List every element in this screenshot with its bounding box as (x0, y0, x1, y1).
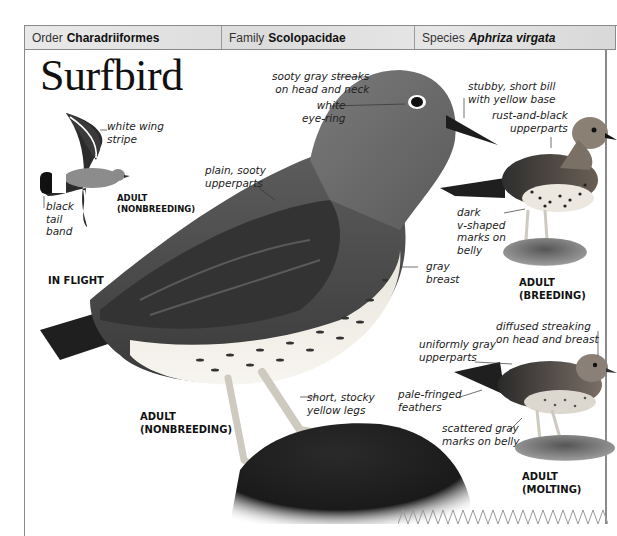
note-line: uniformly gray (419, 338, 496, 351)
note-rust-black-upperparts: rust-and-black upperparts (492, 109, 568, 134)
note-line: pale-fringed (398, 388, 462, 401)
note-line: white (302, 99, 345, 112)
note-line: rust-and-black (492, 109, 568, 122)
note-line: belly (457, 244, 506, 257)
note-line: upperparts (419, 351, 496, 364)
note-line: marks on (457, 231, 506, 244)
note-scattered-gray-marks: scattered gray marks on belly (442, 422, 519, 447)
note-line: on head and neck (272, 83, 369, 96)
zigzag-divider-decoration (398, 508, 608, 524)
caption-line: (NONBREEDING) (117, 204, 195, 215)
note-white-wing-stripe: white wing stripe (107, 120, 164, 145)
note-black-tail-band: black tail band (46, 200, 74, 238)
note-plain-sooty-upperparts: plain, sooty upperparts (205, 164, 266, 189)
note-short-stocky-legs: short, stocky yellow legs (307, 391, 375, 416)
caption-molting: ADULT (MOLTING) (522, 470, 581, 496)
note-line: gray (426, 260, 459, 273)
note-line: short, stocky (307, 391, 375, 404)
note-line: plain, sooty (205, 164, 266, 177)
caption-in-flight: IN FLIGHT (48, 274, 104, 287)
caption-main-nonbreeding: ADULT (NONBREEDING) (140, 410, 232, 436)
note-line: eye-ring (302, 112, 345, 125)
note-stubby-bill: stubby, short bill with yellow base (468, 80, 556, 105)
caption-line: ADULT (522, 470, 581, 483)
note-line: feathers (398, 401, 462, 414)
note-diffused-streaking: diffused streaking on head and breast (496, 320, 599, 345)
note-line: upperparts (492, 122, 568, 135)
note-white-eye-ring: white eye-ring (302, 99, 345, 124)
note-line: dark (457, 206, 506, 219)
note-line: stripe (107, 133, 164, 146)
note-line: sooty gray streaks (272, 70, 369, 83)
caption-line: ADULT (117, 193, 195, 204)
note-line: white wing (107, 120, 164, 133)
note-line: on head and breast (496, 333, 599, 346)
caption-line: ADULT (519, 276, 586, 289)
note-line: stubby, short bill (468, 80, 556, 93)
caption-breeding: ADULT (BREEDING) (519, 276, 586, 302)
note-dark-v-marks: dark v-shaped marks on belly (457, 206, 506, 256)
note-line: band (46, 225, 74, 238)
note-pale-fringed-feathers: pale-fringed feathers (398, 388, 462, 413)
note-line: v-shaped (457, 219, 506, 232)
caption-line: ADULT (140, 410, 232, 423)
caption-line: (BREEDING) (519, 289, 586, 302)
note-sooty-streaks: sooty gray streaks on head and neck (272, 70, 369, 95)
note-uniformly-gray-upperparts: uniformly gray upperparts (419, 338, 496, 363)
note-line: black (46, 200, 74, 213)
note-line: tail (46, 213, 74, 226)
note-line: with yellow base (468, 93, 556, 106)
caption-line: (MOLTING) (522, 483, 581, 496)
note-line: diffused streaking (496, 320, 599, 333)
note-line: marks on belly (442, 435, 519, 448)
note-line: scattered gray (442, 422, 519, 435)
caption-in-flight-age: ADULT (NONBREEDING) (117, 193, 195, 215)
note-line: breast (426, 273, 459, 286)
caption-line: (NONBREEDING) (140, 423, 232, 436)
note-gray-breast: gray breast (426, 260, 459, 285)
note-line: upperparts (205, 177, 266, 190)
note-line: yellow legs (307, 404, 375, 417)
